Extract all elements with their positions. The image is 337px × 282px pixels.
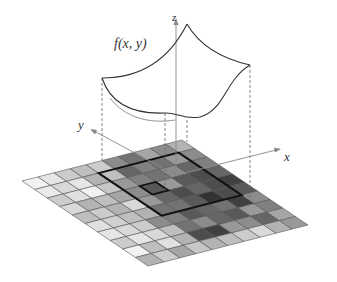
x-axis-label: x bbox=[284, 150, 290, 163]
surface-underside-edge bbox=[110, 98, 175, 121]
z-axis-label: z bbox=[172, 12, 176, 23]
function-label: f(x, y) bbox=[114, 37, 147, 51]
x-axis-arrow-icon bbox=[274, 148, 281, 153]
y-axis-label: y bbox=[78, 118, 84, 131]
y-axis-arrow-icon bbox=[90, 129, 97, 135]
surface-back-right-edge bbox=[187, 24, 250, 65]
surface-grid-diagram bbox=[0, 0, 337, 282]
surface-back-left-edge bbox=[102, 24, 187, 78]
